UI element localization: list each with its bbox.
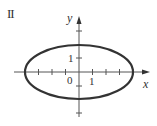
- plot-area: y x 1 0 1: [0, 0, 157, 126]
- x-tick-label-1: 1: [89, 75, 95, 87]
- y-axis-arrow-icon: [77, 16, 82, 24]
- x-axis-label: x: [142, 77, 149, 91]
- x-axis-arrow-icon: [142, 70, 150, 75]
- panel-label: II: [7, 6, 14, 22]
- y-axis-label: y: [66, 11, 73, 25]
- ellipse-figure: II y x 1 0 1: [0, 0, 157, 126]
- origin-label: 0: [67, 74, 73, 86]
- y-tick-label-1: 1: [68, 52, 74, 64]
